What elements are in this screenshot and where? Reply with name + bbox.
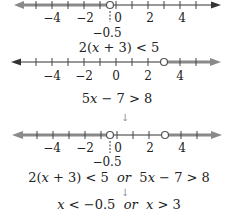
inequality-2: 5x − 7 > 8	[82, 91, 152, 106]
tick-label: 4	[178, 141, 186, 155]
tick-label: 4	[178, 11, 186, 25]
open-circle-icon	[162, 132, 169, 139]
number-line-2	[11, 58, 221, 66]
inequality-3: 2(x + 3) < 5 or 5x − 7 > 8	[28, 170, 210, 185]
down-arrow-icon: ↓	[121, 110, 129, 125]
tick-label: −4	[43, 141, 61, 155]
tick-label: −2	[76, 11, 94, 25]
inequality-1: 2(x + 3) < 5	[79, 40, 160, 55]
result-inequality: x < −0.5 or x > 3	[57, 197, 180, 212]
tick-label: 0	[114, 141, 122, 155]
boundary-label: −0.5	[92, 26, 121, 40]
tick-label: 4	[176, 69, 184, 83]
open-circle-icon	[107, 132, 114, 139]
tick-label: 2	[146, 141, 154, 155]
open-circle-icon	[107, 2, 114, 9]
tick-label: −4	[43, 69, 61, 83]
boundary-label: −0.5	[92, 155, 121, 169]
tick-label: −4	[43, 11, 61, 25]
tick-label: −2	[75, 69, 93, 83]
tick-label: −2	[76, 141, 94, 155]
tick-label: 2	[146, 11, 154, 25]
tick-label: 2	[144, 69, 152, 83]
tick-label: 0	[114, 11, 122, 25]
open-circle-icon	[161, 59, 168, 66]
tick-label: 0	[112, 69, 120, 83]
